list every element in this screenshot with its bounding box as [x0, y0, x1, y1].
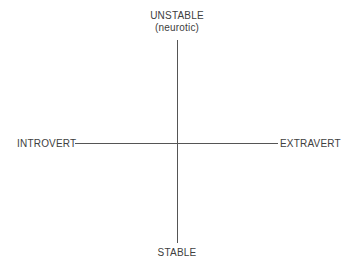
vertical-axis-line: [177, 40, 178, 243]
introvert-label: INTROVERT: [17, 138, 76, 149]
neurotic-sublabel: (neurotic): [127, 22, 227, 34]
unstable-label: UNSTABLE: [127, 10, 227, 22]
top-axis-label: UNSTABLE (neurotic): [127, 10, 227, 34]
horizontal-axis-line: [75, 143, 278, 144]
extravert-label: EXTRAVERT: [280, 138, 341, 149]
personality-axes-diagram: UNSTABLE (neurotic) INTROVERT EXTRAVERT …: [0, 0, 354, 268]
stable-label: STABLE: [127, 247, 227, 258]
